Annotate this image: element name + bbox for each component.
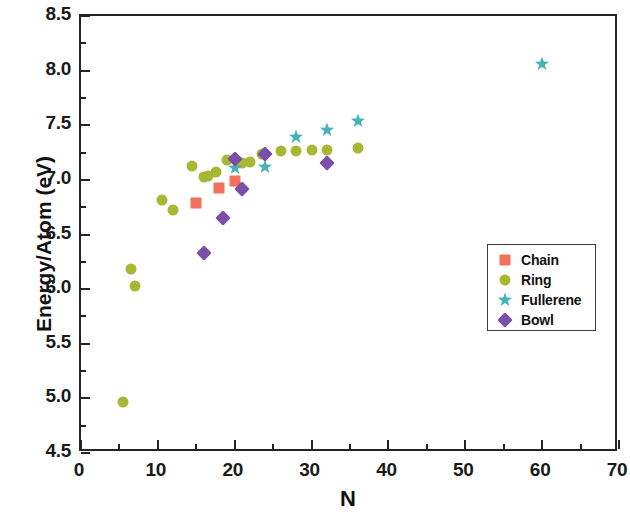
x-tick-label: 10	[146, 459, 167, 481]
data-point-bowl	[227, 151, 243, 167]
y-tick-label: 6.0	[21, 276, 71, 298]
x-tick-minor	[195, 444, 197, 449]
legend-label: Ring	[521, 272, 551, 288]
chart-legend: ChainRingFullereneBowl	[487, 244, 596, 331]
y-tick-label: 5.0	[21, 385, 71, 407]
y-tick-label: 6.5	[21, 222, 71, 244]
y-tick-minor	[81, 206, 86, 208]
legend-label: Chain	[521, 252, 559, 268]
data-point-fullerene	[535, 57, 550, 72]
legend-item-fullerene[interactable]: Fullerene	[497, 290, 595, 309]
y-tick-major	[81, 179, 90, 181]
x-tick-minor	[272, 444, 274, 449]
x-tick-minor	[580, 444, 582, 449]
y-tick-minor	[81, 97, 86, 99]
y-tick-minor	[81, 152, 86, 154]
x-tick-label: 0	[74, 459, 84, 481]
x-tick-major	[80, 440, 82, 449]
y-tick-minor	[81, 42, 86, 44]
x-tick-label: 20	[222, 459, 243, 481]
y-tick-minor	[81, 370, 86, 372]
data-point-ring	[352, 143, 363, 154]
data-point-bowl	[215, 210, 231, 226]
data-point-ring	[237, 158, 248, 169]
y-tick-major	[81, 343, 90, 345]
x-axis-title: N	[79, 486, 617, 512]
data-point-ring	[245, 157, 256, 168]
data-point-chain	[229, 175, 240, 186]
y-tick-major	[81, 70, 90, 72]
y-tick-label: 5.5	[21, 331, 71, 353]
data-point-ring	[125, 264, 136, 275]
x-tick-major	[541, 440, 543, 449]
x-tick-minor	[349, 444, 351, 449]
marker-diamond	[497, 312, 513, 328]
data-point-bowl	[319, 156, 335, 172]
data-point-ring	[256, 148, 267, 159]
data-point-fullerene	[350, 113, 365, 128]
data-point-bowl	[196, 245, 212, 261]
y-tick-label: 8.0	[21, 58, 71, 80]
x-tick-minor	[426, 444, 428, 449]
data-points-layer	[81, 16, 615, 449]
data-point-fullerene	[289, 130, 304, 145]
data-point-ring	[291, 146, 302, 157]
x-tick-major	[311, 440, 313, 449]
data-point-chain	[191, 197, 202, 208]
y-tick-label: 4.5	[21, 440, 71, 462]
legend-item-ring[interactable]: Ring	[497, 270, 595, 289]
data-point-ring	[156, 194, 167, 205]
data-point-ring	[275, 146, 286, 157]
x-tick-minor	[118, 444, 120, 449]
y-tick-major	[81, 452, 90, 454]
y-tick-major	[81, 397, 90, 399]
x-tick-label: 60	[530, 459, 551, 481]
data-point-ring	[210, 167, 221, 178]
data-point-fullerene	[227, 160, 242, 175]
y-tick-minor	[81, 425, 86, 427]
y-tick-label: 8.5	[21, 3, 71, 25]
data-point-ring	[321, 145, 332, 156]
y-tick-major	[81, 234, 90, 236]
data-point-fullerene	[319, 122, 334, 137]
marker-square	[500, 254, 511, 265]
data-point-bowl	[258, 146, 274, 162]
data-point-bowl	[235, 181, 251, 197]
marker-circle	[500, 274, 511, 285]
x-tick-minor	[503, 444, 505, 449]
marker-star	[498, 292, 513, 307]
x-tick-label: 40	[376, 459, 397, 481]
legend-item-bowl[interactable]: Bowl	[497, 310, 595, 329]
x-tick-major	[464, 440, 466, 449]
x-tick-major	[157, 440, 159, 449]
x-tick-major	[234, 440, 236, 449]
x-tick-major	[618, 440, 620, 449]
legend-label: Fullerene	[521, 292, 581, 308]
data-point-ring	[306, 145, 317, 156]
legend-item-chain[interactable]: Chain	[497, 250, 595, 269]
legend-marker-bowl	[497, 312, 515, 328]
x-tick-major	[387, 440, 389, 449]
plot-area	[79, 14, 617, 451]
data-point-chain	[214, 182, 225, 193]
y-tick-label: 7.0	[21, 167, 71, 189]
y-tick-minor	[81, 315, 86, 317]
x-tick-label: 70	[607, 459, 628, 481]
legend-label: Bowl	[521, 312, 554, 328]
y-tick-major	[81, 288, 90, 290]
chart-figure: Energy/Atom (eV) N 0102030405060704.55.0…	[0, 0, 630, 520]
y-tick-minor	[81, 261, 86, 263]
y-tick-major	[81, 15, 90, 17]
x-tick-label: 50	[453, 459, 474, 481]
data-point-ring	[118, 396, 129, 407]
data-point-ring	[129, 280, 140, 291]
data-point-fullerene	[258, 159, 273, 174]
data-point-ring	[202, 170, 213, 181]
y-tick-major	[81, 124, 90, 126]
legend-marker-fullerene	[497, 292, 515, 308]
data-point-ring	[168, 205, 179, 216]
data-point-ring	[222, 155, 233, 166]
data-point-ring	[187, 160, 198, 171]
y-tick-label: 7.5	[21, 112, 71, 134]
x-tick-label: 30	[299, 459, 320, 481]
